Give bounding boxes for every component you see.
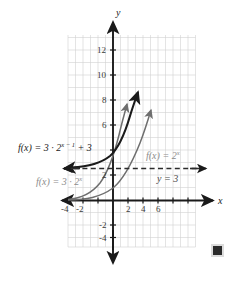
equation-base: f(x) = 3 · 2: [36, 176, 79, 187]
equation-base: f(x) = 3 · 2: [18, 142, 61, 153]
equation-base: f(x) = 2: [146, 150, 177, 161]
equation-label-shifted: f(x) = 3 · 2x − 1 + 3: [18, 142, 92, 153]
square-marker: [211, 244, 224, 257]
y-tick-label: 2: [102, 170, 107, 180]
equation-label-3-times-2-pow-x: f(x) = 3 · 2x: [36, 176, 82, 187]
equation-label-2-pow-x: f(x) = 2x: [146, 150, 180, 161]
x-axis-label: x: [218, 196, 222, 206]
equation-exponent: x: [79, 175, 82, 182]
y-tick-label: 6: [102, 120, 107, 130]
y-axis-label: y: [116, 8, 120, 18]
equation-exponent: x: [177, 149, 180, 156]
y-tick-label: -2: [99, 220, 107, 230]
x-tick-label: -4: [61, 204, 69, 214]
grid: [68, 35, 196, 247]
equation-tail: + 3: [75, 142, 92, 153]
y-tick-label: 10: [97, 70, 106, 80]
y-tick-label: 8: [102, 95, 107, 105]
asymptote-label: y = 3: [157, 174, 178, 184]
y-tick-label: 12: [97, 45, 106, 55]
x-tick-label: 4: [141, 204, 146, 214]
x-tick-label: -2: [76, 204, 84, 214]
x-tick-label: 2: [126, 204, 131, 214]
equation-exponent: x − 1: [61, 141, 75, 148]
x-tick-label: 6: [156, 204, 161, 214]
graph-figure: y x -4 -2 2 4 6 12 10 8 6 2 -2 -4 f(x) =…: [0, 0, 240, 285]
y-tick-label: -4: [99, 233, 107, 243]
